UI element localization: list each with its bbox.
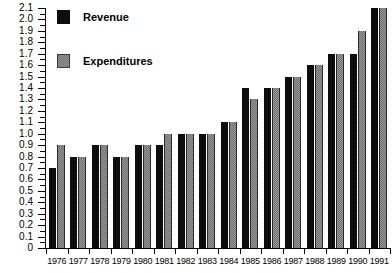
x-tick-mark — [369, 248, 370, 254]
x-axis-ticks — [46, 248, 390, 254]
bar-revenue — [285, 77, 292, 248]
x-tick-mark — [283, 248, 284, 254]
legend-swatch-expenditures — [57, 54, 70, 68]
x-tick-label: 1976 — [46, 255, 68, 269]
x-tick-label: 1990 — [347, 255, 369, 269]
bar-expenditures — [250, 99, 258, 248]
bar-group — [326, 8, 348, 248]
y-axis: 2.12.01.91.81.71.61.51.41.31.21.11.00.90… — [0, 0, 46, 273]
x-tick-label: 1991 — [369, 255, 391, 269]
bar-revenue — [70, 157, 77, 248]
bar-expenditures — [164, 134, 172, 248]
bar-expenditures — [272, 88, 280, 248]
x-axis-labels: 1976197719781979198019811982198319841985… — [46, 255, 390, 269]
x-tick-mark — [89, 248, 90, 254]
legend-item-revenue: Revenue — [57, 10, 153, 24]
bar-revenue — [221, 122, 228, 248]
legend-item-expenditures: Expenditures — [57, 54, 153, 68]
bar-expenditures — [143, 145, 151, 248]
bar-revenue — [264, 88, 271, 248]
bar-expenditures — [207, 134, 215, 248]
bar-revenue — [92, 145, 99, 248]
bar-revenue — [49, 168, 56, 248]
x-tick-mark — [68, 248, 69, 254]
bar-revenue — [307, 65, 314, 248]
x-tick-label: 1977 — [68, 255, 90, 269]
bar-group — [261, 8, 283, 248]
legend-swatch-revenue — [57, 10, 70, 24]
x-tick-label: 1985 — [240, 255, 262, 269]
bar-revenue — [242, 88, 249, 248]
x-tick-label: 1987 — [283, 255, 305, 269]
x-tick-label: 1981 — [154, 255, 176, 269]
x-tick-label: 1978 — [89, 255, 111, 269]
x-tick-label: 1980 — [132, 255, 154, 269]
legend-label-expenditures: Expenditures — [83, 54, 153, 68]
bar-revenue — [113, 157, 120, 248]
bar-group — [240, 8, 262, 248]
bar-revenue — [135, 145, 142, 248]
bar-group — [304, 8, 326, 248]
x-tick-mark — [304, 248, 305, 254]
bar-group — [154, 8, 176, 248]
bar-expenditures — [229, 122, 237, 248]
x-tick-label: 1989 — [326, 255, 348, 269]
x-tick-mark — [111, 248, 112, 254]
bar-revenue — [328, 54, 335, 248]
x-tick-mark — [261, 248, 262, 254]
bar-revenue — [156, 145, 163, 248]
bar-group — [347, 8, 369, 248]
bar-group — [175, 8, 197, 248]
bar-group — [283, 8, 305, 248]
x-tick-label: 1983 — [197, 255, 219, 269]
bar-expenditures — [57, 145, 65, 248]
bar-expenditures — [336, 54, 344, 248]
bar-revenue — [350, 54, 357, 248]
x-tick-mark — [46, 248, 47, 254]
x-tick-mark — [240, 248, 241, 254]
x-tick-mark — [326, 248, 327, 254]
bar-revenue — [199, 134, 206, 248]
x-tick-mark — [390, 248, 391, 254]
bar-group — [369, 8, 391, 248]
x-tick-label: 1982 — [175, 255, 197, 269]
x-tick-label: 1986 — [261, 255, 283, 269]
bar-revenue — [371, 8, 378, 248]
x-tick-label: 1984 — [218, 255, 240, 269]
bar-expenditures — [379, 8, 387, 248]
bar-expenditures — [100, 145, 108, 248]
x-tick-mark — [132, 248, 133, 254]
x-tick-mark — [154, 248, 155, 254]
x-tick-mark — [347, 248, 348, 254]
x-tick-mark — [218, 248, 219, 254]
legend-label-revenue: Revenue — [83, 10, 129, 24]
bar-group — [197, 8, 219, 248]
bar-expenditures — [358, 31, 366, 248]
x-tick-label: 1979 — [111, 255, 133, 269]
bar-expenditures — [293, 77, 301, 248]
bar-expenditures — [78, 157, 86, 248]
bar-expenditures — [121, 157, 129, 248]
bar-expenditures — [315, 65, 323, 248]
x-tick-label: 1988 — [304, 255, 326, 269]
bar-revenue — [178, 134, 185, 248]
legend: Revenue Expenditures — [57, 10, 153, 68]
x-tick-mark — [197, 248, 198, 254]
x-tick-mark — [175, 248, 176, 254]
bar-chart: 2.12.01.91.81.71.61.51.41.31.21.11.00.90… — [0, 0, 392, 273]
bar-group — [218, 8, 240, 248]
clipped-title-strip — [0, 0, 392, 6]
bar-expenditures — [186, 134, 194, 248]
